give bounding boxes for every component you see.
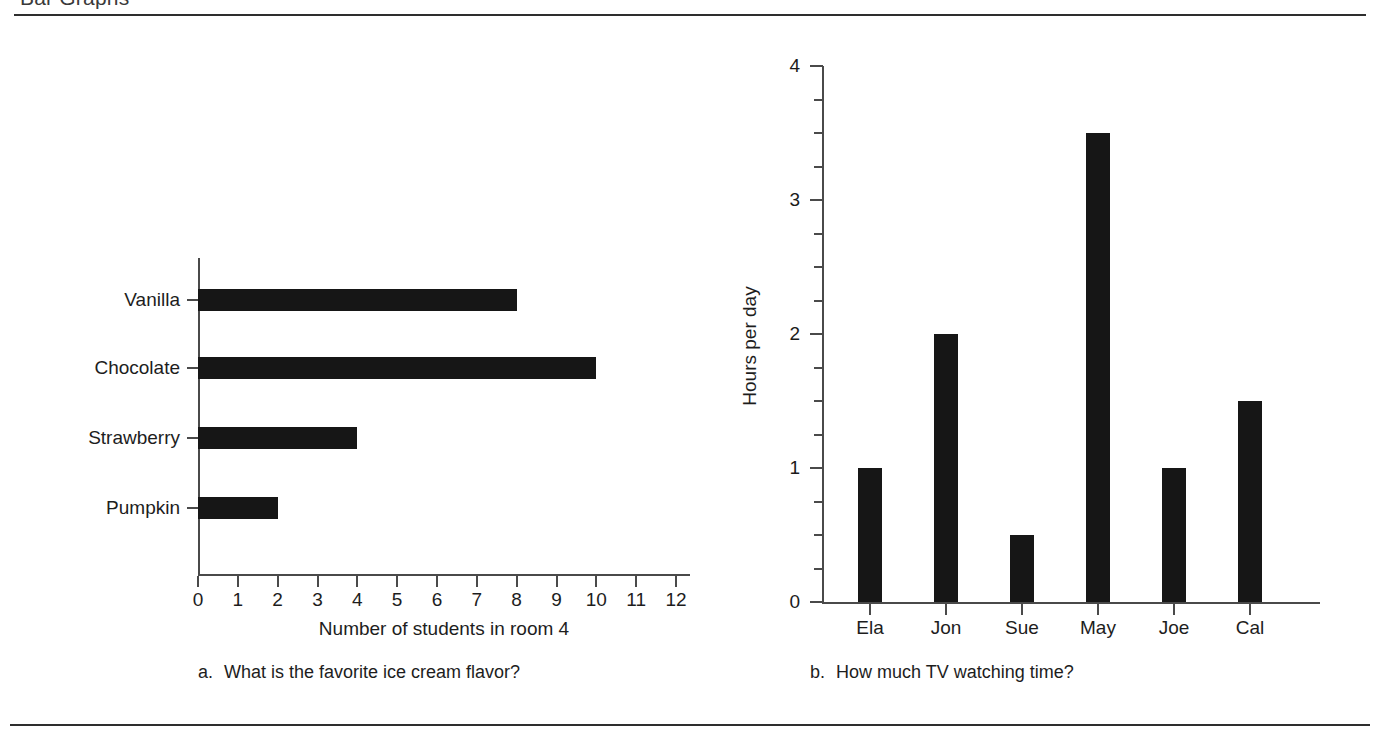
- footer-divider: [10, 724, 1370, 726]
- chart-a-x-tick: [396, 576, 398, 587]
- figure-a-caption-text: What is the favorite ice cream flavor?: [224, 662, 520, 682]
- chart-b-y-tick-minor: [814, 568, 823, 570]
- chart-b-x-tick: [1173, 604, 1175, 615]
- figure-b-caption-text: How much TV watching time?: [836, 662, 1074, 682]
- chart-b-x-tick: [869, 604, 871, 615]
- chart-a-category-label: Pumpkin: [0, 497, 180, 519]
- chart-b-category-label: Jon: [931, 617, 962, 639]
- chart-a-x-tick-label: 1: [233, 589, 244, 611]
- figure-b-caption: b.How much TV watching time?: [810, 662, 1074, 683]
- chart-b-y-tick-label: 1: [700, 457, 800, 479]
- figure-a-caption: a.What is the favorite ice cream flavor?: [198, 662, 520, 683]
- chart-a-x-tick: [635, 576, 637, 587]
- chart-b-category-label: Ela: [856, 617, 883, 639]
- figure-page: Bar Graphs VanillaChocolateStrawberryPum…: [0, 0, 1380, 750]
- chart-b-x-tick: [1097, 604, 1099, 615]
- chart-b-y-tick-label: 4: [700, 55, 800, 77]
- chart-b-y-tick-label: 3: [700, 189, 800, 211]
- chart-b-bar: [1086, 133, 1110, 602]
- figure-a-caption-letter: a.: [198, 662, 224, 683]
- chart-a-category-label: Strawberry: [0, 427, 180, 449]
- chart-b-y-tick-minor: [814, 300, 823, 302]
- chart-b-bar: [1238, 401, 1262, 602]
- chart-a-x-tick-label: 5: [392, 589, 403, 611]
- chart-a-x-tick: [197, 576, 199, 587]
- chart-a-x-tick-label: 0: [193, 589, 204, 611]
- chart-b-y-tick-minor: [814, 501, 823, 503]
- chart-b-y-tick-minor: [814, 166, 823, 168]
- chart-a-x-tick: [317, 576, 319, 587]
- chart-b-category-label: Sue: [1005, 617, 1039, 639]
- chart-a-x-tick: [516, 576, 518, 587]
- chart-a-x-tick: [675, 576, 677, 587]
- chart-b-y-tick-major: [810, 601, 823, 603]
- chart-a-bar: [198, 497, 278, 519]
- chart-b-y-axis-line: [822, 66, 824, 604]
- chart-b-y-tick-major: [810, 467, 823, 469]
- chart-a-x-tick-label: 4: [352, 589, 363, 611]
- chart-a-bar: [198, 357, 596, 379]
- chart-a-x-tick: [237, 576, 239, 587]
- chart-a-category-label-text: Strawberry: [88, 427, 180, 448]
- chart-a-category-label-text: Chocolate: [94, 357, 180, 378]
- chart-b-y-tick-major: [810, 333, 823, 335]
- chart-a-x-tick-label: 8: [511, 589, 522, 611]
- chart-b-y-tick-minor: [814, 233, 823, 235]
- chart-b-category-label: Joe: [1159, 617, 1190, 639]
- chart-b-bar: [1010, 535, 1034, 602]
- chart-a-x-tick-label: 11: [626, 589, 646, 611]
- chart-a-x-tick-label: 12: [665, 589, 686, 611]
- figure-b-bar-chart: 01234 ElaJonSueMayJoeCal Hours per day b…: [700, 0, 1380, 750]
- chart-a-category-label: Chocolate: [0, 357, 180, 379]
- chart-a-x-tick-label: 2: [272, 589, 283, 611]
- chart-b-y-tick-label: 0: [700, 591, 800, 613]
- chart-b-category-label: May: [1080, 617, 1116, 639]
- chart-b-y-tick-minor: [814, 367, 823, 369]
- chart-b-x-tick: [1249, 604, 1251, 615]
- chart-b-y-tick-minor: [814, 99, 823, 101]
- chart-a-x-axis-line: [198, 574, 690, 576]
- figure-b-caption-letter: b.: [810, 662, 836, 683]
- chart-b-y-tick-minor: [814, 434, 823, 436]
- chart-b-y-tick-minor: [814, 400, 823, 402]
- chart-a-x-tick: [476, 576, 478, 587]
- chart-b-y-tick-minor: [814, 534, 823, 536]
- chart-a-x-tick-label: 3: [312, 589, 323, 611]
- chart-b-y-tick-minor: [814, 266, 823, 268]
- chart-a-x-tick-label: 10: [586, 589, 607, 611]
- chart-b-x-axis-line: [822, 602, 1320, 604]
- chart-b-x-tick: [945, 604, 947, 615]
- chart-b-x-tick: [1021, 604, 1023, 615]
- chart-a-x-tick: [436, 576, 438, 587]
- chart-a-x-tick-label: 7: [472, 589, 483, 611]
- chart-a-bar: [198, 289, 517, 311]
- chart-a-x-tick-label: 6: [432, 589, 443, 611]
- figure-a-bar-chart: VanillaChocolateStrawberryPumpkin 012345…: [0, 0, 700, 750]
- chart-a-x-tick-label: 9: [551, 589, 562, 611]
- chart-a-bar: [198, 427, 357, 449]
- chart-b-bar: [858, 468, 882, 602]
- chart-a-x-tick: [356, 576, 358, 587]
- chart-b-bar: [934, 334, 958, 602]
- chart-a-x-tick: [595, 576, 597, 587]
- chart-a-category-label: Vanilla: [0, 289, 180, 311]
- chart-a-category-label-text: Vanilla: [124, 289, 180, 310]
- chart-b-bar: [1162, 468, 1186, 602]
- chart-b-category-label: Cal: [1236, 617, 1265, 639]
- chart-a-category-label-text: Pumpkin: [106, 497, 180, 518]
- chart-b-y-tick-major: [810, 199, 823, 201]
- chart-a-x-axis-title: Number of students in room 4: [198, 618, 690, 640]
- chart-b-y-axis-title: Hours per day: [739, 236, 761, 456]
- chart-a-x-tick: [556, 576, 558, 587]
- chart-a-x-tick: [277, 576, 279, 587]
- chart-b-y-tick-major: [810, 65, 823, 67]
- chart-b-y-tick-minor: [814, 132, 823, 134]
